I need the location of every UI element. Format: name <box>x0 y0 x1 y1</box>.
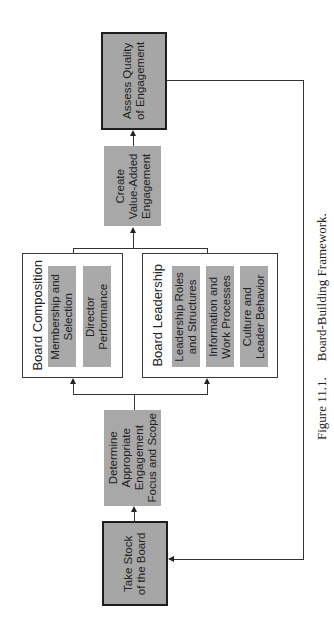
create-line-3: Engagement <box>139 153 152 219</box>
connector-split-composition <box>73 383 74 394</box>
connector-merge-to-create <box>133 232 134 248</box>
item-information-work-processes: Information and Work Processes <box>206 266 234 367</box>
item-leadership-roles: Leadership Roles and Structures <box>172 266 200 367</box>
group-board-composition: Board Composition Membership and Selecti… <box>22 253 123 378</box>
arrow-up-icon <box>130 227 136 233</box>
group-board-leadership: Board Leadership Leadership Roles and St… <box>142 253 278 378</box>
node-assess-quality: Assess Quality of Engagement <box>101 32 167 130</box>
board-composition-title: Board Composition <box>31 260 46 371</box>
item-director-performance: Director Performance <box>83 266 111 367</box>
figure-number: Figure 11.1. <box>314 377 329 440</box>
connector-split-horizontal <box>73 394 208 395</box>
create-line-1: Create <box>113 153 126 219</box>
connector-takestock-determine <box>134 511 135 521</box>
arrow-left-icon <box>168 556 174 562</box>
item-culture-leader-behavior: Culture and Leader Behavior <box>240 266 268 367</box>
feedback-line-bottom <box>172 559 304 560</box>
connector-split-leadership <box>207 383 208 394</box>
node-create-value-added: Create Value-Added Engagement <box>104 146 161 226</box>
connector-merge-horizontal <box>73 248 208 249</box>
board-leadership-title: Board Leadership <box>151 264 166 367</box>
feedback-line-top <box>167 80 304 81</box>
figure-title: Board-Building Framework. <box>314 213 329 361</box>
figure-caption: Figure 11.1.Board-Building Framework. <box>314 213 330 440</box>
create-line-2: Value-Added <box>126 153 139 219</box>
assess-line-2: of Engagement <box>134 42 147 120</box>
item-membership-selection: Membership and Selection <box>48 266 76 367</box>
assess-line-1: Assess Quality <box>121 42 134 120</box>
arrow-up-icon <box>130 130 136 136</box>
node-take-stock: Take Stock of the Board <box>102 521 168 606</box>
node-determine-focus-scope: Determine Appropriate Engagement Focus a… <box>104 410 161 506</box>
connector-determine-up <box>134 394 135 410</box>
feedback-line-right <box>303 80 304 560</box>
